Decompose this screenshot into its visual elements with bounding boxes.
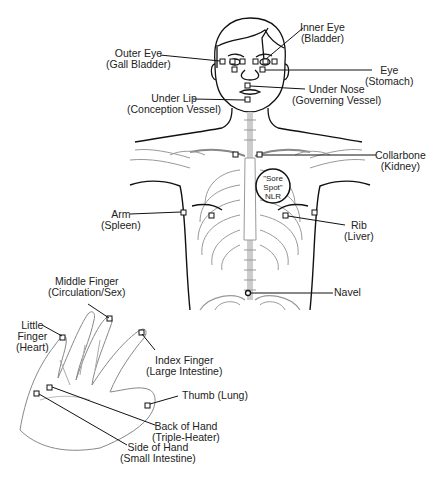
sore-spot-line2: Spot" xyxy=(263,183,282,192)
marker-navel xyxy=(246,291,251,296)
label-arm: Arm (Spleen) xyxy=(101,209,141,231)
label-rib: Rib (Liver) xyxy=(344,220,374,242)
point-name: Navel xyxy=(334,287,361,298)
marker-under-nose xyxy=(245,83,250,88)
point-organ: (Bladder) xyxy=(300,33,345,44)
label-under-lip: Under Lip (Conception Vessel) xyxy=(127,93,221,115)
marker-rib xyxy=(283,213,288,218)
marker-inner-eye xyxy=(263,59,268,64)
marker-index-finger xyxy=(139,330,144,335)
point-organ: (Heart) xyxy=(16,342,49,353)
label-back-of-hand: Back of Hand (Triple-Heater) xyxy=(152,421,220,443)
point-organ: (Large Intestine) xyxy=(146,366,222,377)
point-organ: (Spleen) xyxy=(101,220,141,231)
label-outer-eye: Outer Eye (Gall Bladder) xyxy=(106,48,171,70)
point-organ: (Small Intestine) xyxy=(120,453,196,464)
point-name: Thumb (Lung) xyxy=(182,390,248,401)
label-under-nose: Under Nose (Governing Vessel) xyxy=(292,84,381,106)
sore-spot-line3: NLR xyxy=(265,192,281,201)
point-organ: (Liver) xyxy=(344,231,374,242)
marker-arm xyxy=(181,210,186,215)
label-middle-finger: Middle Finger (Circulation/Sex) xyxy=(48,276,126,298)
point-organ: (Circulation/Sex) xyxy=(48,287,126,298)
marker-eye xyxy=(260,67,265,72)
label-index-finger: Index Finger (Large Intestine) xyxy=(146,355,222,377)
marker-outer-eye-left xyxy=(220,59,225,64)
label-thumb: Thumb (Lung) xyxy=(182,390,248,401)
label-navel: Navel xyxy=(334,287,361,298)
sore-spot-line1: "Sore xyxy=(263,174,283,183)
label-side-of-hand: Side of Hand (Small Intestine) xyxy=(120,442,196,464)
point-organ: (Kidney) xyxy=(375,161,426,172)
point-organ: (Gall Bladder) xyxy=(106,59,171,70)
point-organ: (Conception Vessel) xyxy=(127,104,221,115)
marker-under-lip xyxy=(245,97,250,102)
sore-spot-marker: "Sore Spot" NLR xyxy=(256,169,290,203)
marker-back-of-hand xyxy=(47,385,52,390)
label-collarbone: Collarbone (Kidney) xyxy=(375,150,426,172)
marker-side-of-hand xyxy=(34,391,39,396)
marker-collarbone xyxy=(257,152,262,157)
label-inner-eye: Inner Eye (Bladder) xyxy=(300,22,345,44)
marker-thumb xyxy=(145,403,150,408)
label-little-finger: Little Finger (Heart) xyxy=(16,320,49,353)
point-organ: (Governing Vessel) xyxy=(292,95,381,106)
torso-illustration xyxy=(130,112,365,310)
